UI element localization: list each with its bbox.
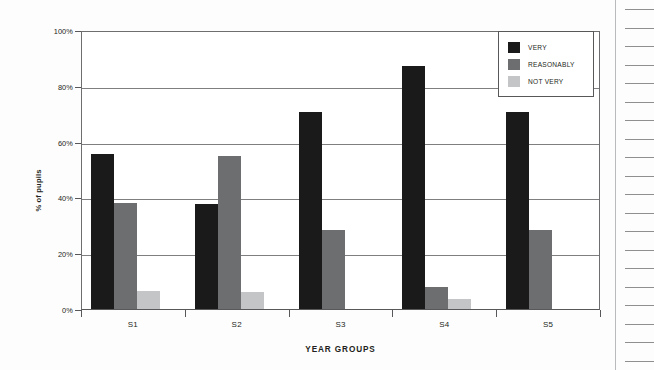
chart-legend: VERYREASONABLYNOT VERY [498, 31, 594, 97]
x-axis-title: YEAR GROUPS [81, 345, 600, 354]
bar-s5-reasonably [529, 230, 552, 310]
ruled-line [625, 213, 654, 214]
ruled-line [625, 250, 654, 251]
legend-swatch-icon [508, 42, 520, 53]
bar-chart-figure: % of pupils 0%20%40%60%80%100% S1S2S3S4S… [0, 0, 610, 370]
legend-swatch-icon [508, 59, 520, 70]
x-axis-tick-label-s2: S2 [207, 320, 267, 329]
bar-s3-very [299, 112, 322, 309]
bar-s3-reasonably [322, 230, 345, 310]
ruled-line [625, 176, 654, 177]
ruled-line [625, 28, 654, 29]
ruled-line [625, 120, 654, 121]
legend-item: REASONABLY [508, 56, 593, 73]
bar-s2-not-very [241, 292, 264, 309]
ruled-line [625, 139, 654, 140]
x-axis-tick-mark [81, 310, 82, 317]
bar-s4-reasonably [425, 287, 448, 309]
bar-s1-very [91, 154, 114, 309]
ruled-line [625, 305, 654, 306]
ruled-line [625, 342, 654, 343]
y-axis-tick-label: 40% [31, 194, 73, 203]
bar-s1-reasonably [114, 203, 137, 309]
y-axis-tick-label: 0% [31, 306, 73, 315]
ruled-line [625, 268, 654, 269]
bar-s2-reasonably [218, 156, 241, 309]
x-axis-tick-label-s1: S1 [103, 320, 163, 329]
ruled-line [625, 194, 654, 195]
ruled-line [625, 157, 654, 158]
x-axis-tick-label-s3: S3 [311, 320, 371, 329]
bar-s2-very [195, 204, 218, 309]
legend-label: REASONABLY [528, 61, 575, 68]
page-margin-rule [615, 0, 616, 370]
legend-label: NOT VERY [528, 78, 563, 85]
bar-s4-very [402, 66, 425, 309]
bar-s1-not-very [137, 291, 160, 309]
ruled-line [625, 83, 654, 84]
y-axis-tick-label: 80% [31, 82, 73, 91]
y-axis-tick-label: 100% [31, 27, 73, 36]
ruled-line [625, 102, 654, 103]
ruled-line [625, 65, 654, 66]
bar-s4-not-very [448, 299, 471, 309]
ruled-line [625, 324, 654, 325]
legend-item: NOT VERY [508, 73, 593, 90]
ruled-line [625, 231, 654, 232]
bar-s5-very [506, 112, 529, 309]
x-axis-tick-label-s4: S4 [414, 320, 474, 329]
x-axis-tick-mark [600, 310, 601, 317]
legend-item: VERY [508, 39, 593, 56]
scanned-page-background: % of pupils 0%20%40%60%80%100% S1S2S3S4S… [0, 0, 654, 370]
x-axis-tick-label-s5: S5 [518, 320, 578, 329]
x-axis-tick-mark [289, 310, 290, 317]
y-axis-tick-label: 60% [31, 138, 73, 147]
legend-swatch-icon [508, 76, 520, 87]
ruled-line [625, 9, 654, 10]
y-axis-title: % of pupils [34, 151, 43, 231]
ruled-line [625, 46, 654, 47]
ruled-line [625, 287, 654, 288]
page-ruled-lines [625, 0, 654, 370]
legend-label: VERY [528, 44, 547, 51]
x-axis-tick-mark [496, 310, 497, 317]
x-axis-tick-mark [392, 310, 393, 317]
x-axis-tick-mark [185, 310, 186, 317]
y-axis-tick-label: 20% [31, 250, 73, 259]
ruled-line [625, 361, 654, 362]
